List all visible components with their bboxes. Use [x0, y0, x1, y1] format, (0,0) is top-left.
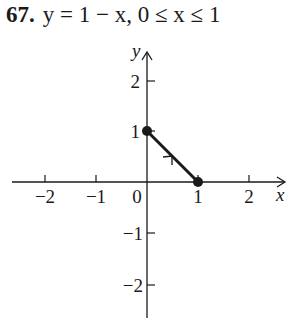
y-tick-label: 2: [131, 71, 141, 92]
origin-label: 0: [132, 186, 142, 207]
start-point: [142, 126, 152, 136]
line-segment: [142, 126, 203, 187]
y-tick-label: 1: [131, 121, 141, 142]
y-tick-label: −2: [123, 275, 143, 296]
y-axis: [142, 52, 155, 318]
end-point: [193, 177, 203, 187]
x-tick-label: 1: [193, 186, 203, 207]
direction-arrow-icon: [163, 156, 172, 165]
x-tick-label: −1: [86, 186, 106, 207]
x-tick-label: −2: [35, 186, 55, 207]
x-axis-label: x: [275, 184, 285, 205]
x-tick-label: 2: [244, 186, 254, 207]
y-tick-label: −1: [123, 223, 143, 244]
y-axis-label: y: [130, 40, 141, 61]
graph: x y −2 −1 0 1 2 2 1 −1 −2: [0, 0, 294, 329]
